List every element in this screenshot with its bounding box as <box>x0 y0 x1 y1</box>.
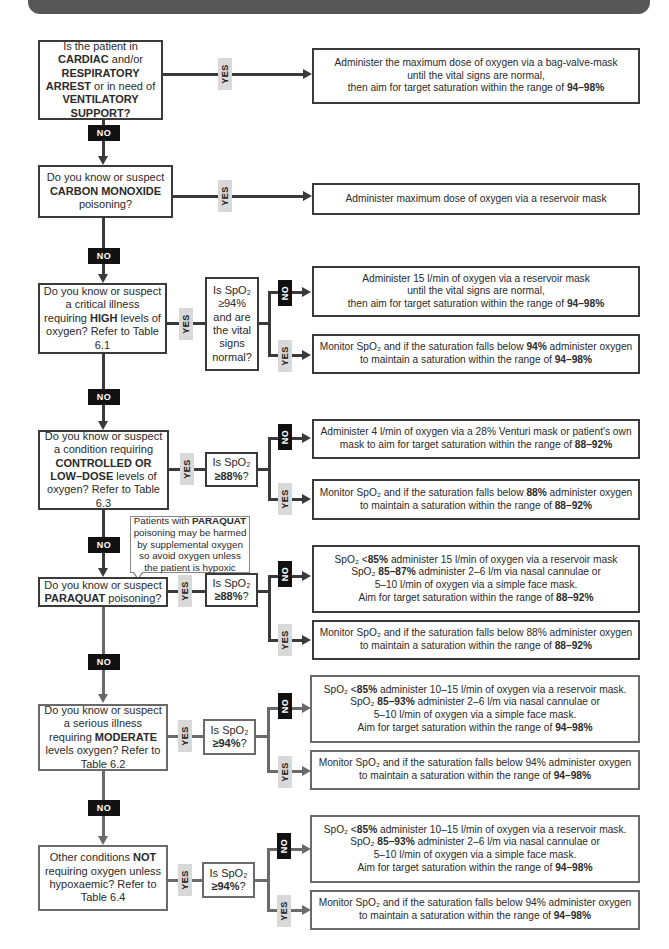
yes-tag: YES <box>178 864 192 896</box>
yes-tag: YES <box>278 756 292 788</box>
no-tag: NO <box>88 248 120 264</box>
no-tag: NO <box>88 389 120 405</box>
connector <box>232 195 304 198</box>
no-tag: NO <box>88 125 120 141</box>
arrow-down-icon <box>98 156 108 165</box>
connector <box>268 575 271 641</box>
yes-tag: YES <box>179 308 193 340</box>
action-4l-venturi: Administer 4 l/min of oxygen via a 28% V… <box>312 419 640 459</box>
action-bag-valve-mask: Administer the maximum dose of oxygen vi… <box>312 48 640 104</box>
question-moderate-oxygen: Do you know or suspect a serious illness… <box>38 704 168 771</box>
connector <box>268 437 271 500</box>
connector <box>267 707 270 772</box>
connector <box>102 354 105 422</box>
check-spo2-94-vitals: Is SpO₂ ≥94% and are the vital signs nor… <box>205 277 259 371</box>
question-carbon-monoxide: Do you know or suspectCARBON MONOXIDEpoi… <box>38 165 173 218</box>
arrow-down-icon <box>98 274 108 283</box>
connector <box>232 73 304 76</box>
connector <box>268 291 271 356</box>
arrow-right-icon <box>303 191 312 201</box>
action-monitor-94-moderate: Monitor SpO₂ and if the saturation falls… <box>310 750 640 790</box>
action-reservoir-mask-max: Administer maximum dose of oxygen via a … <box>312 183 640 215</box>
arrow-right-icon <box>302 494 311 504</box>
question-other-conditions: Other conditions NOT requiring oxygen un… <box>38 845 168 911</box>
action-other-low-spo2: SpO₂ <85% administer 10–15 l/min of oxyg… <box>310 815 640 883</box>
yes-tag: YES <box>278 483 292 515</box>
arrow-right-icon <box>302 571 311 581</box>
no-tag: NO <box>88 654 120 670</box>
yes-tag: YES <box>218 180 232 212</box>
connector <box>258 468 268 471</box>
check-spo2-94: Is SpO₂ ≥94%? <box>202 862 255 898</box>
connector <box>102 218 105 276</box>
arrow-down-icon <box>98 568 108 577</box>
action-monitor-94-other: Monitor SpO₂ and if the saturation falls… <box>310 890 640 930</box>
yes-tag: YES <box>180 453 194 485</box>
no-tag: NO <box>278 280 292 306</box>
action-monitor-88-paraquat: Monitor SpO₂ and if the saturation falls… <box>312 620 640 660</box>
arrow-right-icon <box>303 69 312 79</box>
action-paraquat-low-spo2: SpO₂ <85% administer 15 l/min of oxygen … <box>312 545 640 613</box>
yes-tag: YES <box>218 58 232 90</box>
no-tag: NO <box>88 537 120 553</box>
yes-tag: YES <box>277 895 291 927</box>
check-spo2-88: Is SpO₂ ≥88%? <box>205 452 258 487</box>
connector <box>163 73 218 76</box>
header-bar <box>28 0 650 14</box>
action-moderate-low-spo2: SpO₂ <85% administer 10–15 l/min of oxyg… <box>310 675 640 743</box>
action-15l-reservoir: Administer 15 l/min of oxygen via a rese… <box>312 266 640 317</box>
yes-tag: YES <box>178 575 192 607</box>
arrow-right-icon <box>302 635 311 645</box>
no-tag: NO <box>278 424 292 450</box>
arrow-right-icon <box>302 287 311 297</box>
connector <box>258 590 268 593</box>
arrow-down-icon <box>98 421 108 430</box>
connector <box>102 607 105 695</box>
connector <box>173 195 218 198</box>
question-paraquat: Do you know or suspect PARAQUAT poisonin… <box>38 577 168 607</box>
no-tag: NO <box>278 693 292 719</box>
paraquat-warning-callout: Patients with PARAQUAT poisoning may be … <box>130 516 250 573</box>
action-monitor-88: Monitor SpO₂ and if the saturation falls… <box>312 479 640 520</box>
yes-tag: YES <box>278 340 292 372</box>
check-spo2-88: Is SpO₂ ≥88%? <box>205 573 258 607</box>
arrow-right-icon <box>302 433 311 443</box>
arrow-down-icon <box>98 836 108 845</box>
yes-tag: YES <box>278 624 292 656</box>
arrow-right-icon <box>302 350 311 360</box>
question-cardiac-arrest: Is the patient in CARDIAC and/or RESPIRA… <box>38 40 163 120</box>
check-spo2-94: Is SpO₂ ≥94%? <box>203 719 256 755</box>
question-controlled-oxygen: Do you know or suspect a condition requi… <box>38 430 169 510</box>
no-tag: NO <box>278 561 292 587</box>
connector <box>267 848 270 911</box>
question-high-oxygen: Do you know or suspect a critical illnes… <box>38 283 167 354</box>
action-monitor-94: Monitor SpO₂ and if the saturation falls… <box>312 334 640 374</box>
no-tag: NO <box>88 800 120 816</box>
yes-tag: YES <box>178 720 192 752</box>
arrow-down-icon <box>98 694 108 703</box>
no-tag: NO <box>277 833 291 859</box>
